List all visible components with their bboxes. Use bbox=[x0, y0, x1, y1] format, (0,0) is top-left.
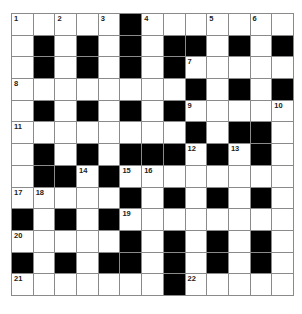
crossword-cell[interactable] bbox=[34, 253, 55, 274]
crossword-cell[interactable] bbox=[34, 14, 55, 35]
crossword-cell[interactable] bbox=[55, 101, 76, 122]
crossword-cell[interactable] bbox=[34, 122, 55, 143]
crossword-cell[interactable] bbox=[99, 36, 120, 57]
crossword-cell[interactable]: 17 bbox=[12, 188, 33, 209]
crossword-cell[interactable]: 12 bbox=[186, 144, 207, 165]
crossword-cell[interactable] bbox=[55, 274, 76, 295]
crossword-cell[interactable]: 4 bbox=[142, 14, 163, 35]
crossword-cell[interactable] bbox=[229, 57, 250, 78]
crossword-cell[interactable] bbox=[142, 101, 163, 122]
crossword-cell[interactable]: 18 bbox=[34, 188, 55, 209]
crossword-cell[interactable] bbox=[142, 36, 163, 57]
crossword-cell[interactable] bbox=[99, 274, 120, 295]
crossword-cell[interactable] bbox=[272, 188, 293, 209]
crossword-cell[interactable]: 8 bbox=[12, 79, 33, 100]
crossword-cell[interactable] bbox=[207, 209, 228, 230]
crossword-cell[interactable] bbox=[229, 274, 250, 295]
crossword-cell[interactable] bbox=[55, 79, 76, 100]
crossword-cell[interactable] bbox=[229, 209, 250, 230]
crossword-cell[interactable] bbox=[77, 209, 98, 230]
crossword-cell[interactable] bbox=[251, 209, 272, 230]
crossword-cell[interactable] bbox=[55, 144, 76, 165]
crossword-cell[interactable] bbox=[12, 101, 33, 122]
crossword-cell[interactable] bbox=[272, 144, 293, 165]
crossword-cell[interactable] bbox=[55, 36, 76, 57]
crossword-cell[interactable] bbox=[251, 36, 272, 57]
crossword-cell[interactable]: 3 bbox=[99, 14, 120, 35]
crossword-cell[interactable] bbox=[229, 14, 250, 35]
crossword-cell[interactable]: 14 bbox=[77, 166, 98, 187]
crossword-cell[interactable] bbox=[207, 274, 228, 295]
crossword-cell[interactable] bbox=[164, 79, 185, 100]
crossword-cell[interactable] bbox=[77, 231, 98, 252]
crossword-cell[interactable] bbox=[251, 79, 272, 100]
crossword-cell[interactable] bbox=[207, 79, 228, 100]
crossword-cell[interactable] bbox=[272, 253, 293, 274]
crossword-cell[interactable] bbox=[34, 274, 55, 295]
crossword-cell[interactable] bbox=[99, 188, 120, 209]
crossword-cell[interactable] bbox=[272, 274, 293, 295]
crossword-cell[interactable] bbox=[55, 122, 76, 143]
crossword-cell[interactable]: 15 bbox=[120, 166, 141, 187]
crossword-cell[interactable] bbox=[77, 274, 98, 295]
crossword-cell[interactable] bbox=[186, 253, 207, 274]
crossword-cell[interactable] bbox=[272, 209, 293, 230]
crossword-cell[interactable] bbox=[229, 101, 250, 122]
crossword-cell[interactable] bbox=[12, 36, 33, 57]
crossword-cell[interactable] bbox=[12, 166, 33, 187]
crossword-cell[interactable] bbox=[229, 166, 250, 187]
crossword-cell[interactable] bbox=[120, 274, 141, 295]
crossword-cell[interactable] bbox=[164, 14, 185, 35]
crossword-cell[interactable] bbox=[77, 188, 98, 209]
crossword-cell[interactable] bbox=[120, 122, 141, 143]
crossword-cell[interactable] bbox=[229, 188, 250, 209]
crossword-cell[interactable] bbox=[207, 101, 228, 122]
crossword-cell[interactable] bbox=[272, 231, 293, 252]
crossword-cell[interactable]: 9 bbox=[186, 101, 207, 122]
crossword-cell[interactable] bbox=[99, 79, 120, 100]
crossword-cell[interactable] bbox=[120, 79, 141, 100]
crossword-cell[interactable] bbox=[229, 231, 250, 252]
crossword-cell[interactable] bbox=[55, 231, 76, 252]
crossword-cell[interactable]: 7 bbox=[186, 57, 207, 78]
crossword-cell[interactable] bbox=[207, 122, 228, 143]
crossword-cell[interactable] bbox=[34, 209, 55, 230]
crossword-cell[interactable] bbox=[55, 188, 76, 209]
crossword-cell[interactable] bbox=[207, 57, 228, 78]
crossword-cell[interactable]: 11 bbox=[12, 122, 33, 143]
crossword-cell[interactable] bbox=[272, 122, 293, 143]
crossword-cell[interactable] bbox=[142, 79, 163, 100]
crossword-cell[interactable] bbox=[99, 57, 120, 78]
crossword-cell[interactable] bbox=[77, 122, 98, 143]
crossword-cell[interactable] bbox=[99, 122, 120, 143]
crossword-cell[interactable] bbox=[34, 79, 55, 100]
crossword-cell[interactable] bbox=[207, 166, 228, 187]
crossword-cell[interactable] bbox=[12, 144, 33, 165]
crossword-cell[interactable] bbox=[272, 166, 293, 187]
crossword-cell[interactable] bbox=[142, 253, 163, 274]
crossword-cell[interactable] bbox=[164, 166, 185, 187]
crossword-cell[interactable]: 1 bbox=[12, 14, 33, 35]
crossword-cell[interactable] bbox=[251, 101, 272, 122]
crossword-cell[interactable] bbox=[229, 253, 250, 274]
crossword-cell[interactable] bbox=[142, 274, 163, 295]
crossword-cell[interactable] bbox=[272, 14, 293, 35]
crossword-cell[interactable]: 22 bbox=[186, 274, 207, 295]
crossword-cell[interactable] bbox=[207, 36, 228, 57]
crossword-cell[interactable] bbox=[251, 274, 272, 295]
crossword-cell[interactable] bbox=[142, 209, 163, 230]
crossword-cell[interactable]: 21 bbox=[12, 274, 33, 295]
crossword-cell[interactable]: 13 bbox=[229, 144, 250, 165]
crossword-cell[interactable]: 20 bbox=[12, 231, 33, 252]
crossword-cell[interactable] bbox=[142, 231, 163, 252]
crossword-cell[interactable] bbox=[77, 14, 98, 35]
crossword-cell[interactable] bbox=[186, 166, 207, 187]
crossword-cell[interactable]: 2 bbox=[55, 14, 76, 35]
crossword-cell[interactable] bbox=[55, 57, 76, 78]
crossword-cell[interactable] bbox=[251, 166, 272, 187]
crossword-cell[interactable] bbox=[272, 57, 293, 78]
crossword-cell[interactable]: 10 bbox=[272, 101, 293, 122]
crossword-cell[interactable] bbox=[142, 57, 163, 78]
crossword-cell[interactable] bbox=[77, 79, 98, 100]
crossword-cell[interactable] bbox=[99, 101, 120, 122]
